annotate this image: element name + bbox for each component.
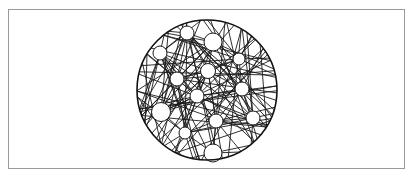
node-circle-e (201, 64, 216, 79)
network-circle-diagram (0, 0, 414, 178)
node-circle-a (180, 26, 194, 40)
node-circle-h (235, 82, 249, 96)
node-circle-k (246, 111, 260, 125)
node-circle-c (153, 46, 167, 60)
node-circle-d (233, 53, 245, 65)
node-circle-b (204, 33, 222, 51)
node-circle-g (190, 89, 204, 103)
node-circle-i (152, 103, 171, 122)
node-circle-j (209, 114, 223, 128)
node-circle-l (179, 127, 191, 139)
node-circle-f (170, 72, 184, 86)
